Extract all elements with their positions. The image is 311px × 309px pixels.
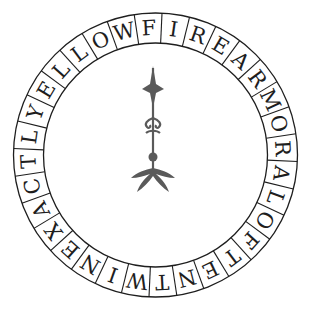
cell-divider	[14, 148, 44, 149]
ring-letter: C	[19, 176, 46, 197]
ring-letter: O	[265, 112, 293, 135]
ring-letter: T	[155, 269, 170, 294]
ring-letter: A	[226, 46, 255, 75]
ring-letter: A	[26, 197, 55, 223]
ring-letter: L	[48, 57, 75, 83]
ring-letter: M	[255, 85, 286, 115]
ring-letter: L	[17, 128, 43, 145]
ring-letter: I	[168, 17, 180, 42]
cell-divider	[15, 172, 45, 176]
ring-letter: I	[105, 262, 121, 287]
ring-letter: L	[262, 187, 289, 208]
ring-letter: W	[124, 267, 149, 294]
ring-letter: A	[268, 163, 294, 183]
ring-letter: N	[77, 249, 105, 279]
ring-letter: Y	[22, 101, 50, 124]
center-ornament-icon	[131, 66, 175, 192]
ring-letter: X	[40, 218, 68, 244]
ring-letter: F	[141, 16, 157, 41]
cell-divider	[161, 13, 162, 43]
letter-ring-puzzle: FIREARMORALOFTENTWINEXACTLYELLOW	[0, 0, 311, 309]
cell-divider	[267, 160, 297, 161]
ring-letter: F	[236, 227, 264, 254]
ring-letter: W	[111, 18, 138, 47]
ring-letter: R	[270, 140, 295, 158]
ring-letter: T	[16, 154, 41, 169]
ring-letter: N	[175, 264, 199, 292]
ring-letter: E	[57, 235, 84, 263]
